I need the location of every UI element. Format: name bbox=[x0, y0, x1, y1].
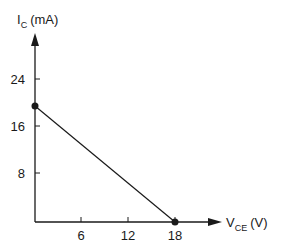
x-ticks: 6 12 18 bbox=[77, 217, 182, 243]
y-axis-label: IC(mA) bbox=[17, 12, 58, 30]
x-axis-label: VCE(V) bbox=[226, 215, 268, 233]
x-tick-label: 6 bbox=[77, 228, 84, 243]
x-tick-label: 12 bbox=[121, 228, 135, 243]
load-line bbox=[35, 106, 175, 222]
x-tick-label: 18 bbox=[168, 228, 182, 243]
load-line-chart: 24 16 8 6 12 18 IC(mA) VCE(V) bbox=[0, 0, 282, 249]
saturation-point bbox=[32, 103, 39, 110]
cutoff-point bbox=[172, 219, 179, 226]
y-tick-label: 8 bbox=[18, 166, 25, 181]
y-tick-label: 24 bbox=[11, 72, 25, 87]
y-tick-label: 16 bbox=[11, 119, 25, 134]
y-axis-arrow-icon bbox=[31, 33, 39, 46]
x-axis-arrow-icon bbox=[208, 218, 222, 226]
